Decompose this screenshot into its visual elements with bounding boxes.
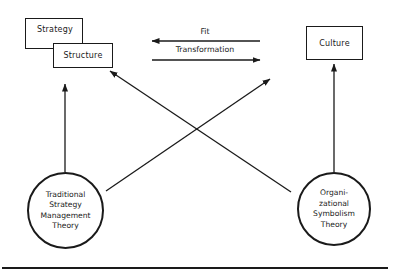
symbolism-to-structure-arrow <box>110 71 291 192</box>
symbolism-line-1: Organi- <box>320 188 348 199</box>
traditional-line-3: Management <box>40 211 90 222</box>
traditional-line-4: Theory <box>52 221 78 232</box>
culture-box: Culture <box>306 26 363 60</box>
organizational-symbolism-theory-node: Organi- zational Symbolism Theory <box>297 172 371 246</box>
structure-label: Structure <box>63 51 102 60</box>
symbolism-line-4: Theory <box>321 220 347 231</box>
bottom-rule <box>2 267 388 269</box>
symbolism-line-2: zational <box>319 199 349 210</box>
traditional-strategy-management-theory-node: Traditional Strategy Management Theory <box>27 172 104 249</box>
traditional-to-culture-arrow <box>106 79 270 191</box>
symbolism-line-3: Symbolism <box>313 209 355 220</box>
structure-box: Structure <box>53 43 113 68</box>
transformation-label: Transformation <box>160 45 250 54</box>
strategy-label: Strategy <box>37 25 73 34</box>
culture-label: Culture <box>319 39 350 48</box>
traditional-line-1: Traditional <box>46 190 86 201</box>
traditional-line-2: Strategy <box>49 200 82 211</box>
fit-label: Fit <box>190 27 220 36</box>
